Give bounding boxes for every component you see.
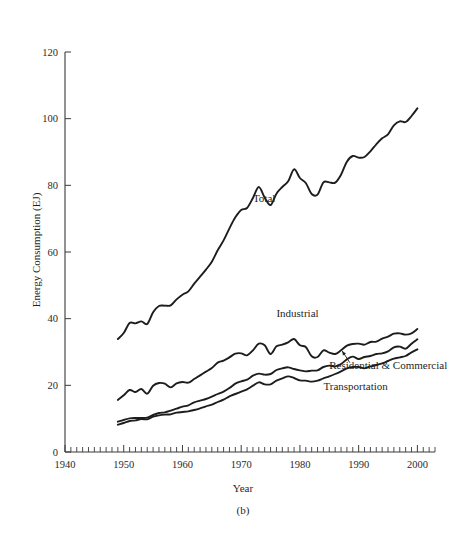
series-leader-arrow-residential-commercial <box>342 351 346 355</box>
figure-caption: (b) <box>237 504 250 517</box>
x-tick-label: 1980 <box>289 459 310 470</box>
y-tick-label: 100 <box>42 113 58 124</box>
series-label-total: Total <box>253 192 275 204</box>
x-tick-label: 1940 <box>55 459 76 470</box>
x-tick-label: 1990 <box>348 459 369 470</box>
x-tick-label: 1970 <box>231 459 252 470</box>
y-axis-title: Energy Consumption (EJ) <box>30 192 43 307</box>
y-tick-label: 40 <box>48 313 59 324</box>
y-tick-label: 120 <box>42 47 58 58</box>
y-axis: 020406080100120 <box>42 47 71 458</box>
x-tick-label: 2000 <box>407 459 428 470</box>
y-tick-label: 80 <box>48 180 59 191</box>
series-labels: TotalIndustrialResidential & CommercialT… <box>253 192 447 392</box>
y-tick-label: 60 <box>48 247 59 258</box>
x-axis-title: Year <box>233 482 254 494</box>
y-tick-label: 0 <box>53 447 58 458</box>
y-tick-label: 20 <box>48 380 59 391</box>
x-axis: 1940195019601970198019902000 <box>55 445 436 470</box>
x-tick-label: 1960 <box>172 459 193 470</box>
series-label-transportation: Transportation <box>323 380 388 392</box>
series-label-residential-commercial: Residential & Commercial <box>329 359 447 371</box>
series-line-total <box>118 108 418 339</box>
series-label-industrial: Industrial <box>276 307 318 319</box>
x-tick-label: 1950 <box>113 459 134 470</box>
figure-panel: 020406080100120 194019501960197019801990… <box>0 0 473 534</box>
energy-consumption-line-chart: 020406080100120 194019501960197019801990… <box>0 0 473 534</box>
series-lines <box>118 108 418 424</box>
plot-area: 020406080100120 194019501960197019801990… <box>42 47 447 470</box>
